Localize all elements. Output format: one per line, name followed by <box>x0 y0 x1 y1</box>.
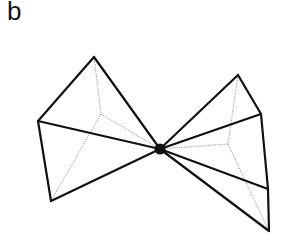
left-base-edge-2 <box>38 121 51 201</box>
right-base-edge-3 <box>268 189 269 231</box>
right-base-edge-1 <box>238 75 261 114</box>
right-lateral-edge-mid <box>160 149 268 189</box>
right-lateral-edge-corner <box>160 114 261 149</box>
left-pyramid <box>38 57 160 201</box>
focal-point-dot <box>155 144 166 155</box>
right-hidden-edge-top <box>228 75 238 144</box>
left-lateral-edge-bottom <box>51 149 160 201</box>
right-lateral-edge-bottom <box>160 149 269 231</box>
right-pyramid <box>160 75 269 231</box>
pyramid-diagram <box>0 0 289 244</box>
right-lateral-edge-top <box>160 75 238 149</box>
left-hidden-edge-apex <box>101 114 160 149</box>
left-base-edge-1 <box>38 57 94 121</box>
right-base-edge-2 <box>261 114 268 189</box>
